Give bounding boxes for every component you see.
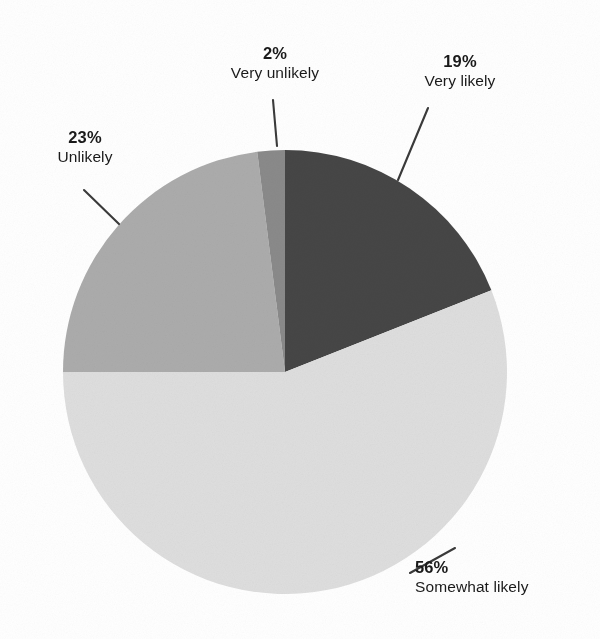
slice-category-very-unlikely: Very unlikely (190, 64, 360, 82)
slice-label-very-likely: 19% Very likely (385, 52, 535, 91)
slice-percent-somewhat-likely: 56% (415, 558, 595, 577)
leader-line-very-unlikely (273, 100, 277, 146)
slice-category-somewhat-likely: Somewhat likely (415, 578, 595, 596)
slice-category-very-likely: Very likely (385, 72, 535, 90)
leader-line-unlikely (84, 190, 119, 224)
pie-chart: 2% Very unlikely 19% Very likely 23% Unl… (0, 0, 600, 639)
slice-label-somewhat-likely: 56% Somewhat likely (415, 558, 595, 597)
slice-percent-unlikely: 23% (20, 128, 150, 147)
slice-label-very-unlikely: 2% Very unlikely (190, 44, 360, 83)
pie-slices (63, 150, 507, 594)
leader-line-very-likely (398, 108, 428, 180)
pie-chart-canvas (0, 0, 600, 639)
slice-label-unlikely: 23% Unlikely (20, 128, 150, 167)
slice-category-unlikely: Unlikely (20, 148, 150, 166)
slice-percent-very-likely: 19% (385, 52, 535, 71)
slice-percent-very-unlikely: 2% (190, 44, 360, 63)
pie-slice-unlikely (63, 152, 285, 372)
